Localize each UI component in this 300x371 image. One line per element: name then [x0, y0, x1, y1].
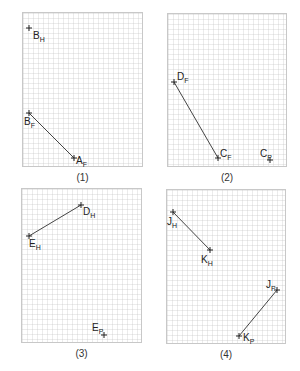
segment-BF-AF	[29, 113, 74, 158]
segment-DH-EH	[29, 205, 81, 236]
segment-DF-CF	[174, 82, 218, 158]
diagram-lines-layer	[0, 0, 300, 371]
cross-marker-icon	[78, 202, 84, 208]
cross-marker-icon	[26, 233, 32, 239]
segment-JP-KP	[239, 290, 277, 336]
segment-JH-KH	[173, 212, 210, 250]
cross-marker-icon	[101, 332, 107, 338]
cross-marker-icon	[171, 79, 177, 85]
cross-marker-icon	[26, 25, 32, 31]
cross-marker-icon	[215, 155, 221, 161]
cross-marker-icon	[267, 157, 273, 163]
